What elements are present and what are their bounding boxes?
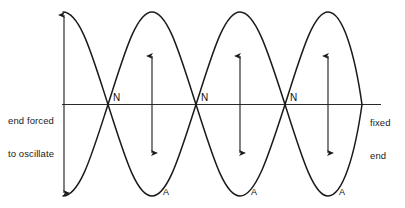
standing-wave-diagram: [0, 0, 405, 208]
antinode-label-3: A: [339, 188, 345, 197]
fixed-end-label-line1: fixed: [370, 117, 391, 128]
antinode-label-1: A: [163, 188, 169, 197]
driven-end-label-line2: to oscillate: [8, 148, 54, 159]
fixed-end-label: fixed end: [370, 95, 391, 172]
driven-end-label-line1: end forced: [8, 115, 54, 126]
node-label-3: N: [290, 93, 297, 103]
antinode-label-2: A: [251, 188, 257, 197]
node-label-1: N: [113, 93, 120, 103]
fixed-end-label-line2: end: [370, 150, 391, 161]
driven-end-label: end forced to oscillate: [8, 93, 54, 170]
node-label-2: N: [201, 93, 208, 103]
